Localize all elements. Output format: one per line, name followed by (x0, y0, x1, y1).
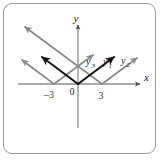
x-tick-label-neg3: –3 (43, 89, 54, 100)
curve-label-y2-letter: y (120, 55, 126, 66)
figure-container: x y –3 3 0 y 3 y 1 y 2 (0, 0, 163, 160)
coordinate-plot: x y –3 3 0 y 3 y 1 y 2 (0, 0, 163, 160)
curve-label-y3-subscript: 3 (91, 62, 96, 70)
curve-label-y1: y 1 (102, 56, 112, 70)
curve-label-y3-letter: y (85, 56, 91, 67)
origin-label: 0 (70, 86, 75, 97)
x-tick-label-3: 3 (99, 90, 104, 101)
x-axis-label: x (143, 71, 149, 83)
curve-label-y1-letter: y (102, 56, 108, 67)
curve-label-y1-subscript: 1 (109, 62, 113, 70)
axes-group (18, 25, 140, 128)
curve-label-y3: y 3 (85, 56, 96, 70)
curve-label-y2-subscript: 2 (127, 61, 131, 69)
y-axis-label: y (73, 12, 79, 24)
